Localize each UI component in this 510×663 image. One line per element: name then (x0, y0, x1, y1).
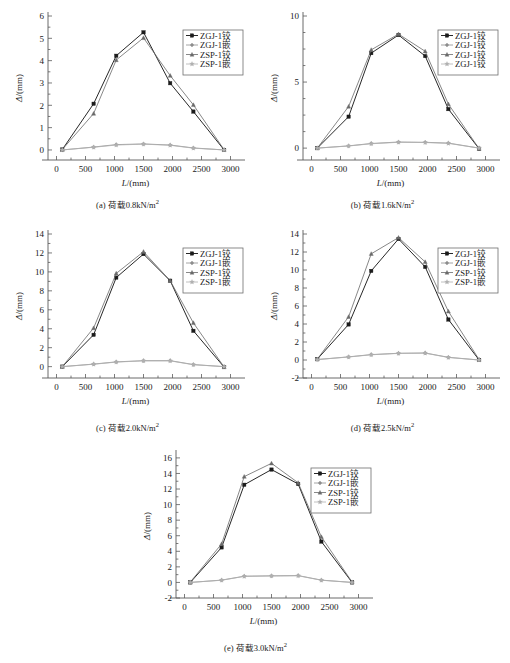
svg-text:1000: 1000 (106, 164, 125, 174)
y-axis-ticks: -202468101214 (290, 229, 307, 383)
y-axis-ticks: 0123456 (40, 11, 53, 155)
caption-b-text: 荷载1.6kN/m (363, 200, 411, 210)
svg-text:2000: 2000 (164, 382, 183, 392)
svg-text:500: 500 (334, 382, 348, 392)
svg-text:1: 1 (40, 123, 45, 133)
svg-text:2000: 2000 (164, 164, 183, 174)
svg-text:0: 0 (40, 362, 45, 372)
svg-text:14: 14 (163, 469, 173, 479)
y-axis-title: Δ/(mm) (14, 74, 24, 103)
svg-text:14: 14 (290, 229, 300, 239)
svg-text:5: 5 (295, 77, 300, 87)
legend-label: ZGJ-1铰 (328, 468, 359, 479)
svg-text:4: 4 (168, 546, 173, 556)
caption-a-sup: 2 (156, 198, 159, 205)
svg-text:10: 10 (290, 11, 300, 21)
legend[interactable]: ZGJ-1铰ZGJ-1铰ZGJ-1铰ZGJ-1铰 (438, 30, 498, 76)
caption-b-sup: 2 (411, 198, 414, 205)
x-axis-title: L/(mm) (121, 178, 150, 188)
caption-d-prefix: (d) (351, 423, 361, 433)
svg-text:14: 14 (35, 229, 45, 239)
chart-svg-d: -202468101214050010001500200025003000L/(… (255, 222, 510, 418)
y-axis-title: Δ/(mm) (269, 292, 279, 321)
svg-text:2500: 2500 (193, 382, 212, 392)
svg-text:500: 500 (207, 602, 221, 612)
chart-svg-c: 02468101214050010001500200025003000L/(mm… (0, 222, 255, 418)
legend-label: ZGJ-1铰 (200, 248, 231, 259)
legend-label: ZGJ-1铰 (455, 30, 486, 41)
svg-text:1000: 1000 (361, 382, 380, 392)
svg-text:3000: 3000 (477, 164, 496, 174)
svg-text:0: 0 (54, 164, 59, 174)
legend[interactable]: ZGJ-1铰ZGJ-1嵌ZSP-1铰ZSP-1嵌 (183, 248, 243, 294)
svg-text:12: 12 (35, 248, 44, 258)
svg-text:0: 0 (309, 382, 314, 392)
caption-a-prefix: (a) (96, 200, 105, 210)
legend-label: ZGJ-1嵌 (455, 258, 486, 268)
legend[interactable]: ZGJ-1铰ZGJ-1嵌ZSP-1铰ZSP-1嵌 (438, 248, 498, 294)
caption-a: (a) 荷载0.8kN/m2 (0, 200, 255, 211)
caption-e: (e) 荷载3.0kN/m2 (128, 643, 383, 654)
svg-text:6: 6 (40, 305, 45, 315)
svg-text:1000: 1000 (106, 382, 125, 392)
legend-label: ZGJ-1铰 (200, 30, 231, 41)
series-4 (60, 142, 227, 152)
chart-svg-e: -20246810121416050010001500200025003000L… (128, 442, 383, 638)
chart-panel-c: 02468101214050010001500200025003000L/(mm… (0, 222, 255, 418)
legend-label: ZSP-1铰 (328, 487, 359, 498)
svg-text:0: 0 (182, 602, 187, 612)
svg-text:8: 8 (168, 515, 173, 525)
chart-svg-a: 0123456050010001500200025003000L/(mm)Δ/(… (0, 4, 255, 200)
svg-text:2000: 2000 (419, 164, 438, 174)
svg-text:6: 6 (40, 11, 45, 21)
chart-panel-d: -202468101214050010001500200025003000L/(… (255, 222, 510, 418)
svg-text:10: 10 (35, 267, 45, 277)
chart-svg-b: 0510050010001500200025003000L/(mm)Δ/(mm)… (255, 4, 510, 200)
y-axis-title: Δ/(mm) (142, 512, 152, 541)
legend[interactable]: ZGJ-1铰ZGJ-1嵌ZSP-1铰ZSP-1嵌 (311, 468, 371, 514)
svg-text:0: 0 (168, 578, 173, 588)
y-axis-title: Δ/(mm) (14, 292, 24, 321)
svg-text:1000: 1000 (234, 602, 253, 612)
svg-text:3000: 3000 (222, 164, 241, 174)
caption-a-text: 荷载0.8kN/m (108, 200, 156, 210)
svg-text:1500: 1500 (135, 382, 154, 392)
svg-text:3000: 3000 (477, 382, 496, 392)
svg-text:12: 12 (163, 484, 172, 494)
x-axis-ticks: 050010001500200025003000 (309, 374, 495, 392)
svg-text:10: 10 (290, 265, 300, 275)
svg-text:-2: -2 (165, 593, 173, 603)
svg-text:10: 10 (163, 500, 173, 510)
svg-text:500: 500 (79, 164, 93, 174)
x-axis-title: L/(mm) (376, 178, 405, 188)
svg-text:0: 0 (309, 164, 314, 174)
series-4 (315, 351, 482, 362)
y-axis-title: Δ/(mm) (269, 74, 279, 103)
caption-e-text: 荷载3.0kN/m (236, 643, 284, 653)
legend-label: ZGJ-1铰 (455, 49, 486, 60)
legend-label: ZSP-1铰 (455, 267, 486, 278)
legend-label: ZGJ-1嵌 (200, 258, 231, 268)
legend-label: ZSP-1嵌 (200, 59, 231, 69)
svg-text:6: 6 (168, 531, 173, 541)
svg-text:4: 4 (40, 324, 45, 334)
x-axis-ticks: 050010001500200025003000 (309, 156, 495, 174)
chart-panel-e: -20246810121416050010001500200025003000L… (128, 442, 383, 638)
x-axis-title: L/(mm) (249, 616, 278, 626)
svg-text:1500: 1500 (390, 164, 409, 174)
svg-text:5: 5 (40, 34, 45, 44)
caption-e-prefix: (e) (224, 643, 233, 653)
chart-panel-b: 0510050010001500200025003000L/(mm)Δ/(mm)… (255, 4, 510, 200)
svg-text:2: 2 (295, 337, 300, 347)
svg-text:8: 8 (40, 286, 45, 296)
caption-d: (d) 荷载2.5kN/m2 (255, 423, 510, 434)
legend-label: ZGJ-1铰 (455, 248, 486, 259)
legend[interactable]: ZGJ-1铰ZGJ-1嵌ZSP-1铰ZSP-1嵌 (183, 30, 243, 76)
svg-text:0: 0 (54, 382, 59, 392)
svg-text:0: 0 (295, 355, 300, 365)
series-4 (60, 358, 227, 368)
svg-text:2: 2 (40, 343, 45, 353)
svg-text:3000: 3000 (222, 382, 241, 392)
series-4 (188, 573, 355, 584)
svg-text:2: 2 (168, 562, 173, 572)
